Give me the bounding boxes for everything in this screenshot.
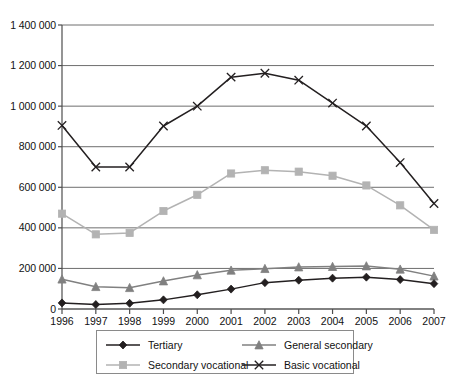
legend-marker-triangle-icon	[240, 339, 278, 351]
data-point-diamond	[160, 296, 168, 304]
data-point-square	[295, 168, 302, 175]
legend-item-label: General secondary	[284, 339, 373, 351]
data-point-diamond	[92, 301, 100, 309]
legend-marker-cross-icon	[240, 359, 278, 371]
legend-item-basic-vocational[interactable]: Basic vocational	[240, 355, 360, 375]
data-point-diamond	[363, 273, 371, 281]
legend-marker-diamond-icon	[104, 339, 142, 351]
data-point-cross	[362, 122, 370, 130]
legend-marker-square-icon	[104, 359, 142, 371]
data-point-diamond	[396, 276, 404, 284]
series-secondary-vocational	[58, 167, 437, 238]
data-point-triangle	[58, 275, 66, 283]
y-axis-label: 800 000	[19, 141, 56, 151]
y-axis-label: 1 000 000	[10, 101, 56, 111]
data-point-square	[160, 207, 167, 214]
series-line	[62, 266, 434, 288]
data-point-cross	[396, 158, 404, 166]
data-point-square	[194, 191, 201, 198]
data-point-diamond	[261, 279, 269, 287]
legend-item-general-secondary[interactable]: General secondary	[240, 335, 373, 355]
data-point-cross	[430, 199, 438, 207]
data-point-diamond	[119, 341, 127, 349]
y-axis-label: 0	[50, 304, 56, 314]
y-axis-label: 1 200 000	[10, 60, 56, 70]
legend-item-tertiary[interactable]: Tertiary	[104, 335, 182, 355]
legend-item-label: Basic vocational	[284, 359, 360, 371]
data-point-diamond	[295, 276, 303, 284]
series-line	[62, 170, 434, 234]
data-point-square	[261, 167, 268, 174]
y-axis-label: 1 400 000	[10, 20, 56, 30]
data-point-diamond	[329, 274, 337, 282]
data-point-square	[363, 182, 370, 189]
data-point-diamond	[126, 299, 134, 307]
data-point-square	[227, 170, 234, 177]
chart-container: 0200 000400 000600 000800 0001 000 0001 …	[0, 0, 449, 388]
data-point-square	[430, 226, 437, 233]
data-point-diamond	[227, 285, 235, 293]
y-axis-label: 200 000	[19, 263, 56, 273]
data-point-diamond	[58, 299, 66, 307]
y-axis-label: 600 000	[19, 182, 56, 192]
legend-item-label: Tertiary	[148, 339, 182, 351]
series-general-secondary	[58, 262, 438, 292]
data-point-square	[329, 172, 336, 179]
data-point-cross	[159, 122, 167, 130]
data-point-diamond	[430, 280, 438, 288]
y-axis-label: 400 000	[19, 222, 56, 232]
series-tertiary	[58, 273, 438, 308]
data-point-square	[92, 231, 99, 238]
x-axis-label: 2007	[412, 316, 449, 327]
data-point-square	[119, 361, 126, 368]
series-line	[62, 73, 434, 203]
data-point-diamond	[193, 291, 201, 299]
legend-item-secondary-vocational[interactable]: Secondary vocational	[104, 355, 248, 375]
legend-item-label: Secondary vocational	[148, 359, 248, 371]
data-point-square	[126, 229, 133, 236]
series-line	[62, 277, 434, 304]
data-point-square	[58, 210, 65, 217]
data-point-square	[397, 202, 404, 209]
